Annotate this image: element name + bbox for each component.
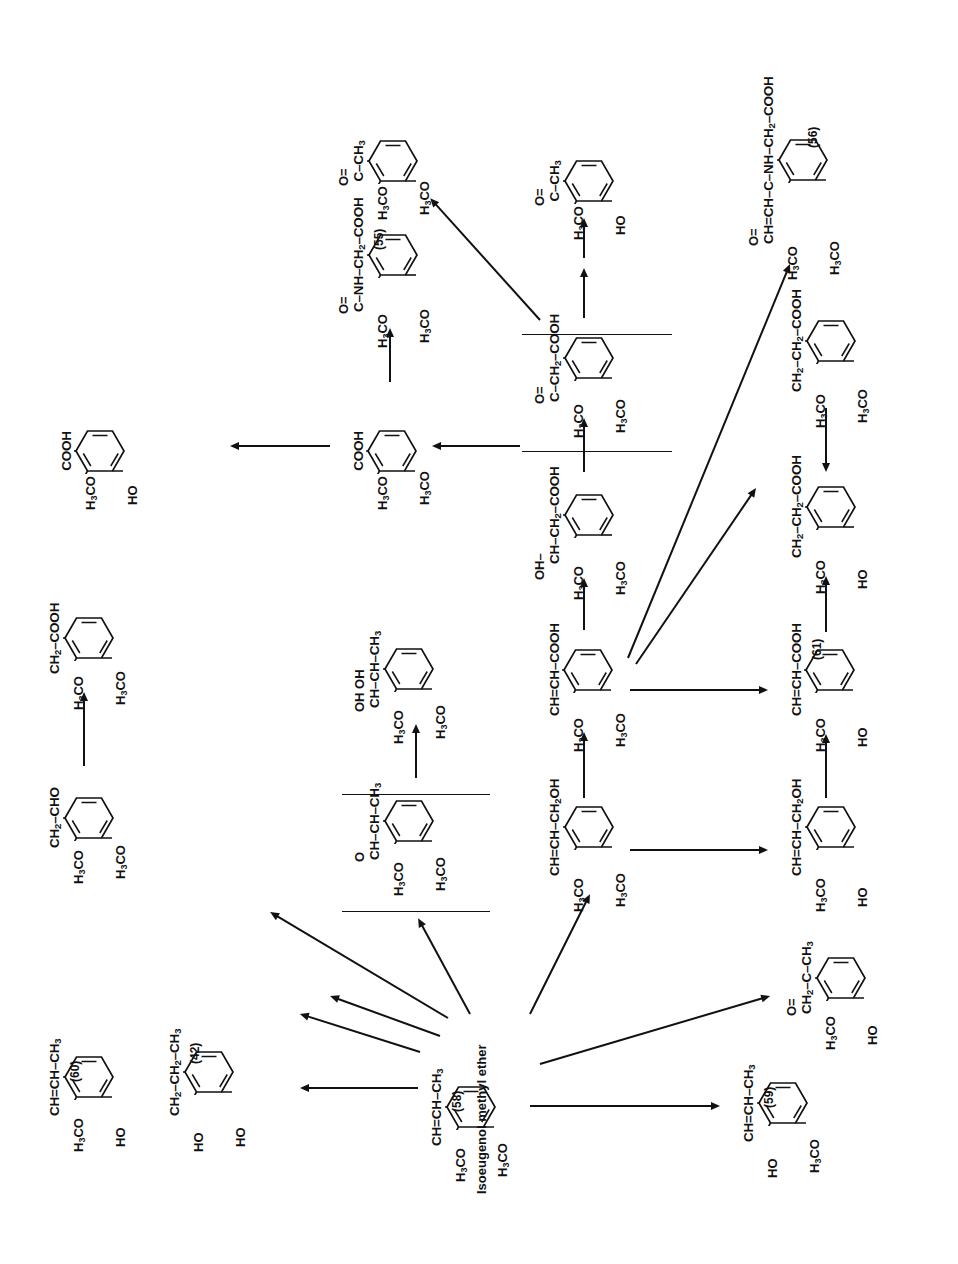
molecule-m60-label: (60): [68, 1061, 82, 1082]
molecule-m58-substituent-3: H3CO: [453, 1148, 469, 1182]
scheme-canvas: CH=CH–CH3H3COHO(60)CH2–CH2–CH3HOHO(42)CH…: [0, 0, 958, 1264]
molecule-m56-label: (56): [806, 127, 820, 148]
molecule-hydroxy_ketone-substituent-3: H3CO: [823, 1016, 839, 1050]
molecule-m60-substituent-3: H3CO: [71, 1118, 87, 1152]
molecule-m55-sidechain: C–NH–CH2–COOH: [352, 198, 367, 312]
molecule-hydroxy_ketone: O=CH2–C–CH3H3COHO: [800, 941, 869, 1014]
molecule-phenylacetic_acid-substituent-4: H3CO: [113, 671, 129, 705]
molecule-hydroxy_ketone-benzene-ring: [815, 955, 869, 1001]
molecule-m59-label: (59): [762, 1087, 776, 1108]
molecule-vanillic_acid-substituent-3: H3CO: [83, 476, 99, 510]
rotated-figure-wrapper: CH=CH–CH3H3COHO(60)CH2–CH2–CH3HOHO(42)CH…: [0, 0, 958, 1264]
arrow-58-to-phenylacetaldehyde: [270, 912, 448, 1018]
molecule-m58: CH=CH–CH3H3COH3CO(58)Isoeugenol methyl e…: [430, 1069, 499, 1146]
molecule-diol-sidechain: CH–CH–CH3: [368, 631, 383, 708]
molecule-phenylacetaldehyde-benzene-ring: [63, 795, 117, 841]
molecule-cinnamyl_alcohol-substituent-4: H3CO: [613, 873, 629, 907]
molecule-dihydro_dimethoxy_acid-substituent-4: H3CO: [855, 389, 871, 423]
arrow-cinnamicacid-to-56: [628, 264, 790, 658]
molecule-m55-substituent-4: H3CO: [417, 309, 433, 343]
molecule-cinnamyl_alcohol-sidechain: CH=CH–CH2OH: [548, 779, 563, 876]
molecule-m59: CH=CH–CH3HOH3CO(59): [742, 1065, 811, 1142]
arrow-58-to-hydroxy-ketone: [540, 996, 770, 1064]
molecule-cinnamyl_alcohol-benzene-ring: [563, 804, 617, 850]
molecule-dihydro_dimethoxy_acid-benzene-ring: [805, 318, 859, 364]
molecule-hydroxy_acid-pendant: OH–: [533, 553, 546, 580]
molecule-vanillic_acid: COOHH3COHO: [60, 428, 128, 474]
molecule-vanillic_acid-benzene-ring: [74, 428, 128, 474]
molecule-hydroxy_acid-benzene-ring: [563, 492, 617, 538]
molecule-m59-substituent-4: H3CO: [807, 1139, 823, 1173]
molecule-veratric_acid-substituent-3: H3CO: [375, 476, 391, 510]
molecule-phenylacetic_acid: CH2–COOHH3COH3CO: [48, 603, 117, 674]
molecule-m59-sidechain: CH=CH–CH3: [742, 1065, 757, 1142]
molecule-m56-substituent-4: H3CO: [827, 241, 843, 275]
molecule-m60-substituent-4: HO: [113, 1128, 128, 1148]
molecule-diol-benzene-ring: [383, 647, 437, 693]
molecule-dimethoxycinnamic_acid-substituent-4: H3CO: [613, 713, 629, 747]
molecule-hydroxy_acid: OH–CH–CH2–COOHH3COH3CO: [548, 466, 617, 564]
molecule-acetoveratrone-substituent-3: H3CO: [375, 186, 391, 220]
molecule-acetovanillone-benzene-ring: [563, 158, 617, 204]
molecule-m61: CH=CH–COOHH3COHO(61): [790, 623, 858, 716]
bracket-epoxide: [342, 794, 490, 912]
molecule-m42-label: (42): [188, 1043, 202, 1064]
molecule-acetovanillone-substituent-4: HO: [613, 216, 628, 236]
molecule-veratric_acid-sidechain: COOH: [352, 428, 366, 474]
molecule-m55-label: (55): [372, 229, 386, 250]
molecule-acetovanillone: O=C–CH3H3COHO: [548, 158, 617, 204]
molecule-hydroxy_ketone-pendant: O=: [785, 998, 798, 1016]
molecule-veratric_acid-benzene-ring: [366, 428, 420, 474]
molecule-hydroxy_acid-substituent-4: H3CO: [613, 561, 629, 595]
molecule-coniferyl_alcohol-sidechain: CH=CH–CH2OH: [790, 779, 805, 876]
molecule-dihydroferulic_acid-substituent-4: HO: [855, 570, 870, 590]
molecule-m42-substituent-4: HO: [233, 1128, 248, 1148]
arrow-58-to-epoxide: [418, 918, 470, 1014]
molecule-m42-sidechain: CH2–CH2–CH3: [168, 1029, 183, 1116]
molecule-dimethoxycinnamic_acid-sidechain: CH=CH–COOH: [548, 623, 562, 716]
molecule-diol: OH OHCH–CH–CH3H3COH3CO: [368, 631, 437, 708]
molecule-dimethoxycinnamic_acid: CH=CH–COOHH3COH3CO: [548, 623, 616, 716]
molecule-phenylacetic_acid-sidechain: CH2–COOH: [48, 603, 63, 674]
molecule-vanillic_acid-sidechain: COOH: [60, 428, 74, 474]
molecule-dihydroferulic_acid-benzene-ring: [805, 484, 859, 530]
molecule-dihydro_dimethoxy_acid-sidechain: CH2–CH2–COOH: [790, 289, 805, 392]
molecule-m56: O=CH=CH–C–NH–CH2–COOHH3COH3CO(56): [762, 76, 831, 244]
bracket-keto-acid: [522, 334, 672, 452]
arrow-ketoacid-to-acetoveratrone: [430, 198, 540, 320]
molecule-coniferyl_alcohol-substituent-3: H3CO: [813, 878, 829, 912]
molecule-hydroxy_ketone-substituent-4: HO: [865, 1026, 880, 1046]
molecule-diol-substituent-3: H3CO: [391, 710, 407, 744]
molecule-m61-substituent-4: HO: [855, 728, 870, 748]
molecule-acetoveratrone-pendant: O=: [337, 168, 350, 186]
arrow-cinnamicacid-to-dihydroferulic: [636, 488, 756, 664]
molecule-m61-label: (61): [810, 639, 824, 660]
molecule-hydroxy_ketone-sidechain: CH2–C–CH3: [800, 941, 815, 1014]
molecule-m58-name: Isoeugenol methyl ether: [474, 1044, 489, 1194]
molecule-m58-label: (58): [450, 1091, 464, 1112]
molecule-m55-pendant: O=: [337, 296, 350, 314]
molecule-m58-sidechain: CH=CH–CH3: [430, 1069, 445, 1146]
molecule-m60: CH=CH–CH3H3COHO(60): [48, 1039, 117, 1116]
molecule-acetovanillone-sidechain: C–CH3: [548, 158, 563, 204]
molecule-phenylacetic_acid-benzene-ring: [63, 615, 117, 661]
molecule-m59-substituent-3: HO: [765, 1159, 780, 1179]
molecule-acetovanillone-pendant: O=: [533, 188, 546, 206]
molecule-veratric_acid-substituent-4: H3CO: [417, 471, 433, 505]
molecule-dimethoxycinnamic_acid-benzene-ring: [562, 647, 616, 693]
molecule-m56-pendant: O=: [747, 228, 760, 246]
molecule-acetoveratrone-benzene-ring: [367, 138, 421, 184]
arrow-58-to-cinnamyl-alcohol: [530, 894, 590, 1014]
molecule-phenylacetaldehyde: CH2–CHOH3COH3CO: [48, 787, 117, 848]
molecule-coniferyl_alcohol-benzene-ring: [805, 804, 859, 850]
molecule-m42-substituent-3: HO: [191, 1133, 206, 1153]
molecule-phenylacetaldehyde-substituent-4: H3CO: [113, 845, 129, 879]
molecule-phenylacetaldehyde-sidechain: CH2–CHO: [48, 787, 63, 848]
molecule-m61-sidechain: CH=CH–COOH: [790, 623, 804, 716]
molecule-diol-pendant: OH OH: [353, 669, 366, 712]
molecule-coniferyl_alcohol-substituent-4: HO: [855, 888, 870, 908]
molecule-diol-substituent-4: H3CO: [433, 705, 449, 739]
molecule-vanillic_acid-substituent-4: HO: [125, 486, 140, 506]
molecule-m56-benzene-ring: [777, 137, 831, 183]
molecule-dihydroferulic_acid-sidechain: CH2–CH2–COOH: [790, 455, 805, 558]
